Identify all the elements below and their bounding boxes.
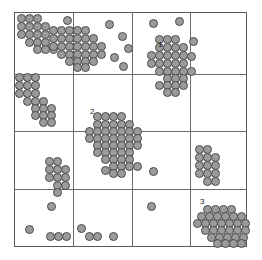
- plot-area: 123: [14, 12, 247, 247]
- scatter-plot-figure: 123: [0, 0, 262, 260]
- cluster-label-3: 3: [200, 198, 204, 206]
- cluster-label-layer: 123: [15, 13, 246, 246]
- cluster-label-2: 2: [90, 108, 94, 116]
- cluster-label-1: 1: [158, 41, 162, 49]
